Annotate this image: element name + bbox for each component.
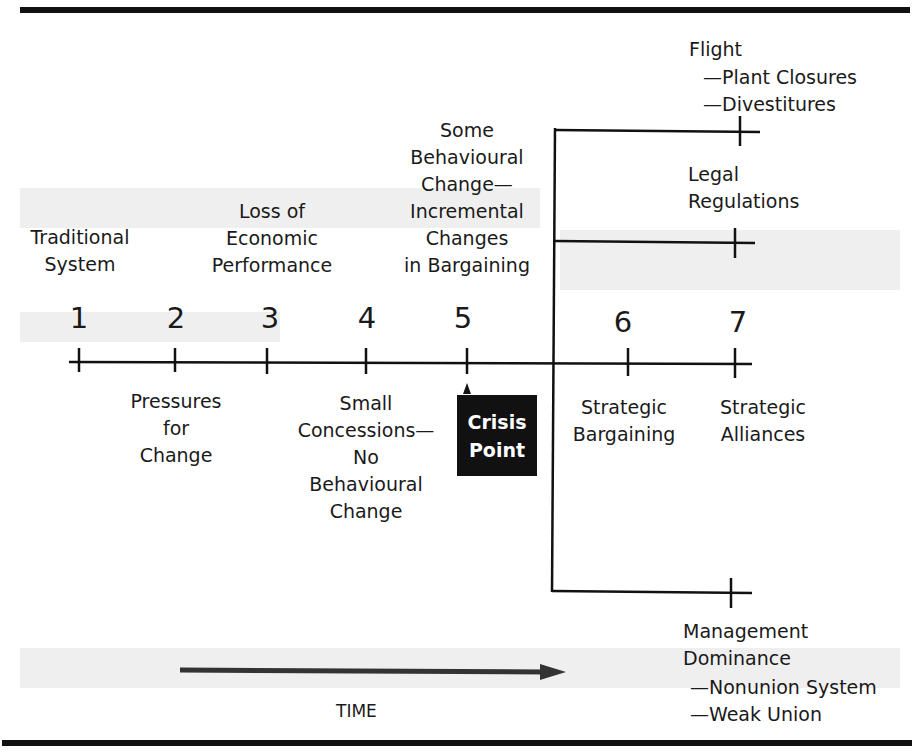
time-arrow-icon (180, 664, 566, 680)
branch-management-title: Management Dominance (683, 618, 808, 672)
branch-flight-item: —Divestitures (703, 91, 836, 118)
branch-management-item: —Weak Union (690, 701, 822, 728)
stage-1-label: Traditional System (31, 224, 130, 278)
stage-6-label: Strategic Bargaining (573, 394, 676, 448)
stage-7-label: Strategic Alliances (720, 394, 806, 448)
stage-number: 2 (167, 302, 185, 334)
branch-management-item: —Nonunion System (690, 674, 877, 701)
stage-number: 5 (454, 302, 472, 334)
stage-number: 7 (729, 306, 747, 338)
branch-flight-title: Flight (689, 36, 742, 63)
branch-flight-item: —Plant Closures (703, 64, 857, 91)
stage-2-label: Pressures for Change (130, 388, 221, 469)
stage-5-label: Some Behavioural Change— Incremental Cha… (404, 117, 530, 279)
crisis-point-box: Crisis Point (457, 395, 537, 476)
stage-3-label: Loss of Economic Performance (212, 198, 332, 279)
stage-number: 1 (70, 302, 88, 334)
stage-number: 6 (614, 306, 632, 338)
branch-legal-title: Legal Regulations (688, 161, 799, 215)
crisis-line2: Point (457, 436, 537, 464)
crisis-line1: Crisis (457, 408, 537, 436)
time-axis-label: TIME (336, 698, 377, 725)
stage-number: 3 (261, 302, 279, 334)
stage-4-label: Small Concessions— No Behavioural Change (298, 390, 435, 525)
stage-number: 4 (358, 302, 376, 334)
